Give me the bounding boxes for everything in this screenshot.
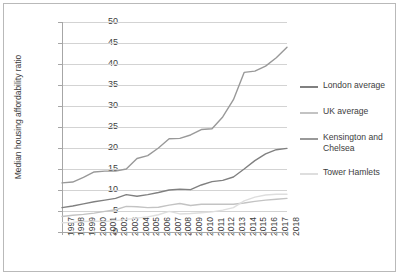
legend-label: Tower Hamlets: [323, 167, 400, 178]
line-chart: Median housing affordability ratio 50454…: [4, 4, 400, 276]
legend-swatch-icon: [300, 86, 318, 88]
legend-swatch-icon: [300, 173, 318, 175]
legend-label: UK average: [323, 106, 400, 117]
legend-item-tower-hamlets[interactable]: Tower Hamlets: [300, 167, 400, 180]
chart-frame: Median housing affordability ratio 50454…: [3, 3, 396, 272]
series-lines: [62, 22, 287, 233]
y-axis-label: Median housing affordability ratio: [13, 17, 23, 217]
legend-item-london-average[interactable]: London average: [300, 80, 400, 93]
legend-item-kensington-and-chelsea[interactable]: Kensington and Chelsea: [300, 132, 400, 154]
legend-label: London average: [323, 80, 400, 91]
series-line-london-average: [62, 148, 287, 207]
series-line-tower-hamlets: [62, 194, 287, 223]
legend-swatch-icon: [300, 112, 318, 114]
chart-legend: London averageUK averageKensington and C…: [300, 80, 400, 193]
plot-area: [62, 22, 287, 232]
x-axis-tick-2018: 2018: [291, 217, 301, 236]
legend-label: Kensington and Chelsea: [323, 132, 400, 154]
legend-item-uk-average[interactable]: UK average: [300, 106, 400, 119]
legend-swatch-icon: [300, 138, 318, 140]
